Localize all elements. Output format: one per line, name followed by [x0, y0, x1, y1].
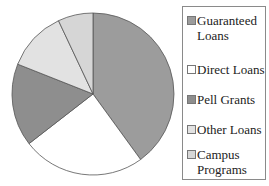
legend-label: Direct Loans	[197, 62, 265, 77]
legend-label-line2: Programs	[187, 162, 247, 177]
legend-label: Pell Grants	[197, 92, 255, 107]
legend-label-line2: Loans	[187, 28, 229, 43]
legend-swatch	[187, 125, 196, 134]
legend-item-guaranteed-loans: Guaranteed Loans	[187, 13, 257, 43]
legend-label: Campus	[197, 147, 240, 162]
legend-item-direct-loans: Direct Loans	[187, 62, 265, 77]
chart-legend: Guaranteed Loans Direct Loans Pell Grant…	[182, 6, 266, 180]
legend-label: Other Loans	[197, 122, 262, 137]
legend-swatch	[187, 65, 196, 74]
legend-item-other-loans: Other Loans	[187, 122, 262, 137]
legend-swatch	[187, 95, 196, 104]
legend-swatch	[187, 150, 196, 159]
pie-chart	[0, 0, 180, 186]
legend-swatch	[187, 16, 196, 25]
legend-item-campus-programs: Campus Programs	[187, 147, 247, 177]
legend-item-pell-grants: Pell Grants	[187, 92, 255, 107]
legend-label: Guaranteed	[197, 13, 257, 28]
